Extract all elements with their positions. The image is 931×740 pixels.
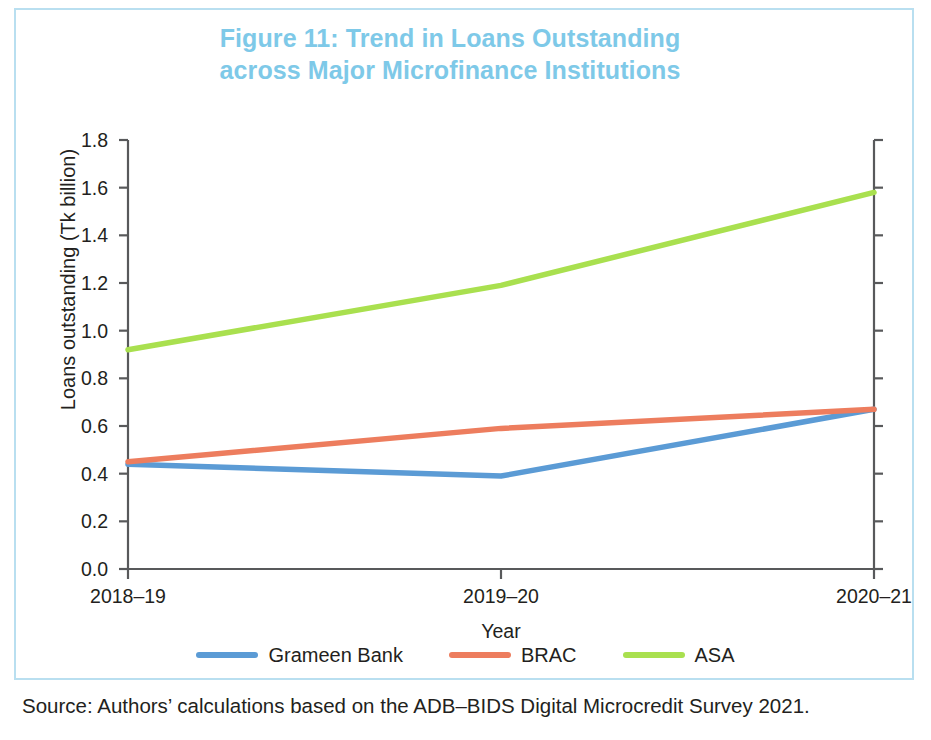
source-note: Source: Authors’ calculations based on t… <box>22 694 810 718</box>
legend-label: BRAC <box>521 645 577 665</box>
legend-swatch-icon <box>196 652 258 658</box>
legend-label: ASA <box>695 645 735 665</box>
legend-swatch-icon <box>623 652 685 658</box>
legend-item-asa[interactable]: ASA <box>623 645 735 665</box>
figure-border-box <box>14 8 914 680</box>
legend-item-brac[interactable]: BRAC <box>449 645 577 665</box>
figure-title-line-2: across Major Microfinance Institutions <box>0 54 900 86</box>
figure-container: Figure 11: Trend in Loans Outstanding ac… <box>0 0 931 740</box>
chart-legend: Grameen BankBRACASA <box>0 645 931 665</box>
legend-item-grameen-bank[interactable]: Grameen Bank <box>196 645 403 665</box>
legend-label: Grameen Bank <box>268 645 403 665</box>
legend-swatch-icon <box>449 652 511 658</box>
figure-title-line-1: Figure 11: Trend in Loans Outstanding <box>0 22 900 54</box>
figure-title: Figure 11: Trend in Loans Outstanding ac… <box>0 22 900 86</box>
